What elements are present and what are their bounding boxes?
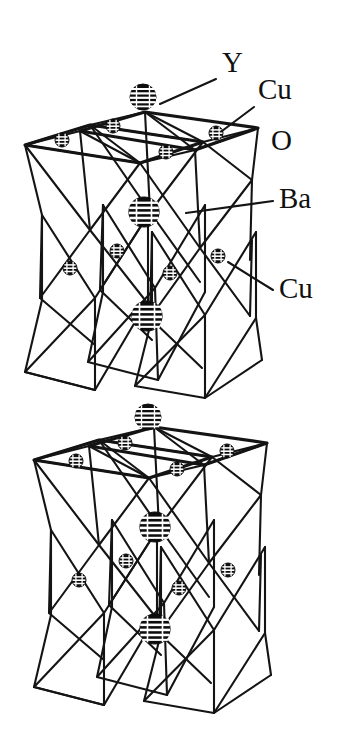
- atom-cu: [110, 244, 124, 258]
- atom-cu: [172, 581, 186, 595]
- atom-cu: [55, 133, 69, 147]
- atom-ba: [140, 512, 170, 542]
- leader-line-y: [160, 79, 216, 104]
- label-ba: Ba: [279, 182, 311, 214]
- atom-y: [135, 404, 161, 430]
- leader-line-ba: [186, 201, 273, 213]
- label-cu-bot: Cu: [279, 272, 313, 304]
- label-cu-top: Cu: [258, 73, 292, 105]
- atom-ba: [132, 301, 162, 331]
- label-y: Y: [222, 46, 243, 78]
- atom-cu: [63, 261, 77, 275]
- atom-ba: [129, 197, 159, 227]
- atom-cu: [221, 563, 235, 577]
- atom-ba: [140, 614, 170, 644]
- label-o: O: [271, 124, 292, 156]
- atom-cu: [119, 554, 133, 568]
- structure-canvas: YCuOBaCu: [0, 0, 346, 750]
- atom-cu: [170, 462, 184, 476]
- crystal-structure-figure: YCuOBaCu: [0, 0, 346, 750]
- atom-cu: [163, 266, 177, 280]
- atom-cu: [118, 436, 132, 450]
- atom-cu: [72, 573, 86, 587]
- atom-cu: [106, 119, 120, 133]
- atom-y: [130, 84, 156, 110]
- atom-cu: [220, 444, 234, 458]
- atom-cu: [209, 126, 223, 140]
- upper-cell-block: [25, 112, 262, 398]
- atom-cu: [69, 454, 83, 468]
- atom-cu: [211, 249, 225, 263]
- atom-cu: [159, 145, 173, 159]
